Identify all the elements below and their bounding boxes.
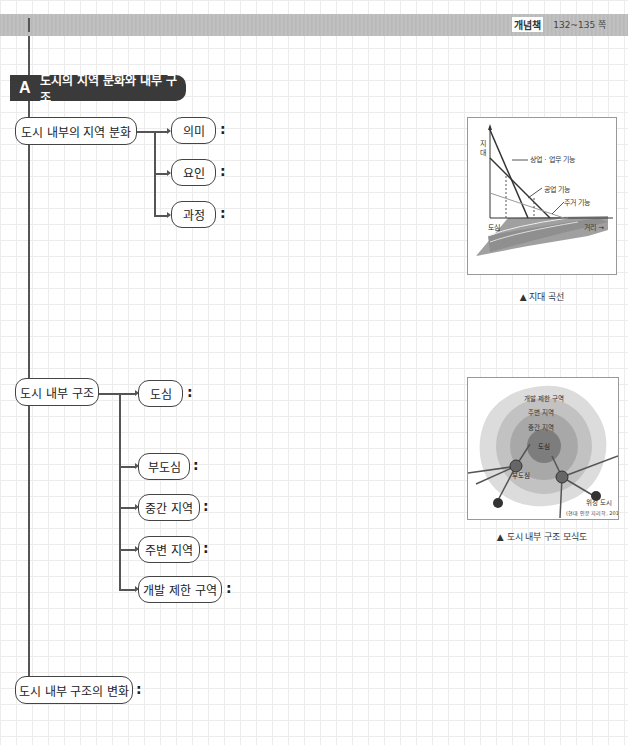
connector — [119, 507, 136, 509]
header-bar: 개념책 132~135 쪽 — [0, 14, 628, 36]
bid-rent-chart: 지 대 상업 · 업무 기능 공업 기능 주거 기능 도심 거리 → — [468, 118, 616, 274]
node-greenbelt: 개발 제한 구역 — [138, 576, 222, 603]
connector — [154, 173, 168, 175]
y-axis-label: 지 — [480, 139, 486, 148]
node-downtown: 도심 — [138, 380, 183, 407]
colon: : — [203, 498, 209, 514]
svg-text:대: 대 — [480, 149, 486, 157]
connector — [99, 393, 120, 395]
connector — [119, 589, 136, 591]
connector — [137, 131, 155, 133]
node-differentiation: 도시 내부의 지역 분화 — [15, 117, 137, 145]
colon: : — [136, 681, 142, 697]
zone-peripheral-label: 주변 지역 — [528, 408, 554, 417]
colon: : — [187, 384, 193, 400]
node-structure-change: 도시 내부 구조의 변화 — [15, 676, 133, 704]
zone-middle-label: 중간 지역 — [528, 423, 554, 432]
connector — [119, 549, 136, 551]
satellite-label: 위성 도시 — [586, 498, 612, 507]
colon: : — [220, 205, 226, 221]
node-peripheral-zone: 주변 지역 — [138, 536, 200, 563]
urban-structure-chart: 개발 제한 구역 주변 지역 중간 지역 도심 부도심 위성 도시 (현대 인문… — [468, 378, 618, 519]
connector — [154, 131, 168, 133]
bid-rent-caption: ▲ 지대 곡선 — [467, 290, 617, 303]
colon: : — [226, 580, 232, 596]
connector — [119, 466, 136, 468]
connector — [154, 215, 168, 217]
book-label: 개념책 — [512, 17, 543, 32]
node-subcenter: 부도심 — [138, 453, 190, 480]
center-label: 도심 — [488, 223, 500, 232]
colon: : — [203, 540, 209, 556]
x-axis-label: 거리 → — [584, 223, 604, 232]
colon: : — [220, 163, 226, 179]
urban-structure-figure: 개발 제한 구역 주변 지역 중간 지역 도심 부도심 위성 도시 (현대 인문… — [467, 377, 619, 520]
subcenter-label: 부도심 — [512, 471, 530, 480]
section-letter: A — [10, 79, 40, 97]
node-structure: 도시 내부 구조 — [15, 378, 99, 406]
zone-greenbelt-label: 개발 제한 구역 — [524, 394, 564, 403]
urban-structure-caption: ▲ 도시 내부 구조 모식도 — [467, 530, 617, 543]
section-header: A 도시의 지역 분화와 내부 구조 — [10, 75, 186, 101]
page-range: 132~135 쪽 — [553, 18, 606, 31]
node-meaning: 의미 — [171, 117, 216, 144]
node-process: 과정 — [171, 201, 216, 228]
line-label-residential: 주거 기능 — [564, 198, 591, 207]
line-label-industrial: 공업 기능 — [544, 185, 571, 194]
node-factor: 요인 — [171, 159, 216, 186]
connector — [119, 393, 136, 395]
source-label: (현대 인문 지리학, 2012) — [566, 510, 618, 517]
colon: : — [193, 457, 199, 473]
node-middle-zone: 중간 지역 — [138, 494, 200, 521]
header-tick — [28, 18, 30, 32]
line-label-commercial: 상업 · 업무 기능 — [530, 155, 576, 164]
bid-rent-figure: 지 대 상업 · 업무 기능 공업 기능 주거 기능 도심 거리 → — [467, 117, 617, 275]
branch-line — [119, 393, 121, 589]
section-title: 도시의 지역 분화와 내부 구조 — [40, 71, 186, 105]
zone-downtown-label: 도심 — [538, 442, 550, 451]
page-reference: 개념책 132~135 쪽 — [512, 17, 606, 32]
colon: : — [220, 121, 226, 137]
